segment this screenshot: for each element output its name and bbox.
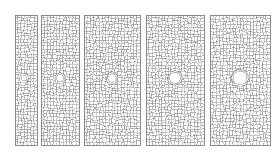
- hole-panel-1: [21, 75, 27, 81]
- hole-panel-4: [170, 73, 181, 84]
- hole-panel-5: [233, 71, 247, 85]
- mesh-panels-figure: [0, 0, 279, 153]
- mesh-panel-1: [15, 15, 37, 145]
- mesh-panel-3: [84, 15, 140, 145]
- hole-panel-3: [108, 74, 116, 82]
- hole-panel-2: [56, 74, 63, 81]
- mesh-panel-2: [41, 15, 79, 145]
- mesh-panel-5: [210, 15, 270, 145]
- mesh-panel-4: [146, 15, 204, 145]
